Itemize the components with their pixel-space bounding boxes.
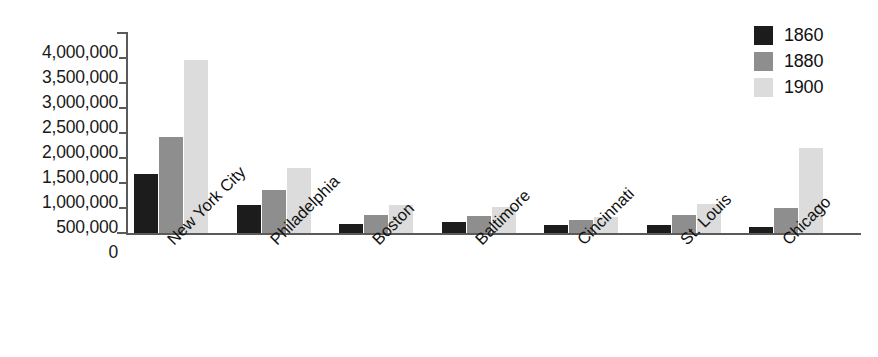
black-swatch-icon xyxy=(754,26,773,45)
y-tick-mark xyxy=(119,57,127,59)
y-tick-mark xyxy=(119,182,127,184)
legend-item-label: 1900 xyxy=(784,78,823,96)
y-tick-mark xyxy=(119,207,127,209)
bar xyxy=(544,225,568,233)
y-tick-label: 3,500,000 xyxy=(42,69,118,87)
y-axis: 4,000,000 3,500,000 3,000,000 2,500,000 … xyxy=(0,20,128,246)
y-tick-mark xyxy=(119,157,127,159)
legend-item: 1880 xyxy=(754,48,864,74)
plot-area xyxy=(128,32,861,233)
legend-item: 1860 xyxy=(754,22,864,48)
y-tick-mark xyxy=(119,132,127,134)
y-tick-label: 0 xyxy=(108,244,118,262)
light-gray-swatch-icon xyxy=(754,78,773,97)
y-tick-label: 2,000,000 xyxy=(42,144,118,162)
y-tick-label: 1,000,000 xyxy=(42,194,118,212)
legend-item-label: 1880 xyxy=(784,52,823,70)
y-tick-mark xyxy=(117,232,127,234)
legend: 1860 1880 1900 xyxy=(754,22,864,100)
y-tick-label: 2,500,000 xyxy=(42,119,118,137)
bar xyxy=(442,222,466,233)
y-tick-mark xyxy=(119,107,127,109)
bar xyxy=(134,174,158,233)
bar xyxy=(237,205,261,233)
bar xyxy=(647,225,671,233)
legend-item-label: 1860 xyxy=(784,26,823,44)
y-tick-label: 4,000,000 xyxy=(42,44,118,62)
x-axis-labels: New York CityPhiladelphiaBostonBaltimore… xyxy=(128,236,861,357)
bar-chart: 4,000,000 3,500,000 3,000,000 2,500,000 … xyxy=(0,0,878,357)
y-tick-mark xyxy=(117,32,127,34)
gray-swatch-icon xyxy=(754,52,773,71)
y-tick-mark xyxy=(119,82,127,84)
y-tick-label: 500,000 xyxy=(56,219,118,237)
y-tick-label: 1,500,000 xyxy=(42,169,118,187)
y-tick-label: 3,000,000 xyxy=(42,94,118,112)
bar xyxy=(749,227,773,233)
bar xyxy=(339,224,363,233)
legend-item: 1900 xyxy=(754,74,864,100)
